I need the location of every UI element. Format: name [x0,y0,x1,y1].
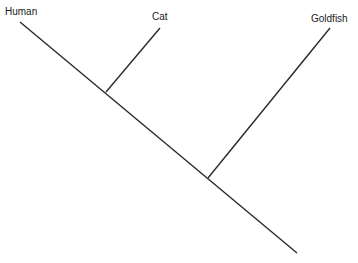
taxon-label-cat: Cat [152,11,168,22]
taxon-label-goldfish: Goldfish [311,13,348,24]
main-trunk-line [20,22,297,253]
taxon-label-human: Human [5,6,37,17]
cladogram [0,0,358,263]
goldfish-branch-line [208,28,330,178]
cat-branch-line [106,28,160,92]
